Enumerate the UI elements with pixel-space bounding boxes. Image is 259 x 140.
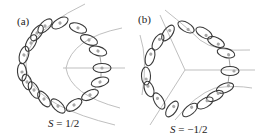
panel-a-outer-guide-curve [26,4,115,125]
panel-b-label: (b) [138,13,151,25]
panel-b-ellipse-chain [141,19,239,120]
panel-b-caption-value: −1/2 [187,123,207,135]
panel-a-caption-eq: = [54,117,66,129]
panel-b-caption-eq: = [176,123,188,135]
panel-a-caption: S = 1/2 [48,117,79,129]
panel-b-diagram [140,10,255,125]
panel-a-label: (a) [17,15,29,27]
figure-canvas [0,0,259,140]
panel-a-caption-value: 1/2 [65,117,79,129]
panel-a-diagram [17,4,125,125]
panel-b-caption: S = −1/2 [170,123,207,135]
